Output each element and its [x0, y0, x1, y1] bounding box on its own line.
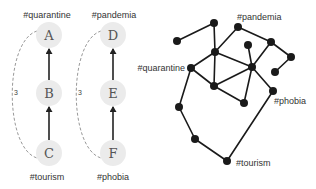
distance-label: 3 — [78, 89, 82, 96]
graph-node — [271, 68, 279, 76]
graph-edge — [177, 23, 214, 41]
chain-node-e: E — [100, 80, 126, 106]
graph-edge — [238, 27, 271, 42]
right-chain: 3DEF#pandemia#phobia — [76, 10, 136, 182]
graph-edge — [179, 107, 195, 139]
chain-node-a: A — [36, 22, 62, 48]
node-letter: D — [108, 28, 118, 43]
graph-node — [210, 82, 218, 90]
node-letter: C — [44, 146, 54, 161]
graph-edge — [191, 68, 214, 86]
graph-node — [248, 63, 256, 71]
graph-node — [211, 48, 219, 56]
graph-edge — [227, 91, 273, 161]
graph-hashtag-label: #tourism — [236, 158, 271, 168]
graph-node-pandemia — [234, 23, 242, 31]
graph-edge — [215, 27, 238, 52]
bottom-hashtag-label: #tourism — [30, 172, 65, 182]
graph-edge — [244, 67, 252, 103]
node-letter: A — [43, 28, 54, 43]
graph-edge — [195, 139, 227, 161]
left-chain: 3ABC#quarantine#tourism — [12, 10, 71, 182]
chain-node-c: C — [36, 140, 62, 166]
graph-node-tourism — [223, 157, 231, 165]
graph-node — [191, 135, 199, 143]
node-letter: F — [108, 146, 117, 161]
bottom-hashtag-label: #phobia — [97, 172, 129, 182]
graph-node — [244, 41, 252, 49]
top-hashtag-label: #pandemia — [92, 10, 137, 20]
graph-nodes — [173, 19, 295, 165]
chain-node-b: B — [36, 80, 62, 106]
graph-node — [240, 99, 248, 107]
graph-edge — [191, 52, 215, 68]
graph-hashtag-label: #quarantine — [137, 63, 185, 73]
graph-edge — [215, 52, 252, 67]
graph-node-phobia — [269, 87, 277, 95]
diagram-canvas: 3ABC#quarantine#tourism 3DEF#pandemia#ph… — [0, 0, 316, 189]
node-letter: E — [108, 86, 118, 101]
graph-hashtag-label: #phobia — [274, 96, 306, 106]
graph-edge — [214, 67, 252, 86]
graph-node — [175, 103, 183, 111]
graph-edge — [252, 42, 271, 67]
graph-node-quarantine — [187, 64, 195, 72]
chain-node-d: D — [100, 22, 126, 48]
graph-edge — [214, 52, 215, 86]
graph-node — [287, 53, 295, 61]
graph-node — [210, 19, 218, 27]
top-hashtag-label: #quarantine — [23, 10, 71, 20]
distance-label: 3 — [14, 89, 18, 96]
hashtag-graph: #pandemia#quarantine#phobia#tourism — [137, 12, 306, 168]
graph-edge — [214, 23, 215, 52]
graph-hashtag-label: #pandemia — [237, 12, 282, 22]
chain-node-f: F — [100, 140, 126, 166]
graph-node — [173, 37, 181, 45]
graph-edge — [214, 86, 244, 103]
graph-edge — [179, 68, 191, 107]
node-letter: B — [44, 86, 54, 101]
graph-edge — [252, 67, 273, 91]
graph-node — [267, 38, 275, 46]
